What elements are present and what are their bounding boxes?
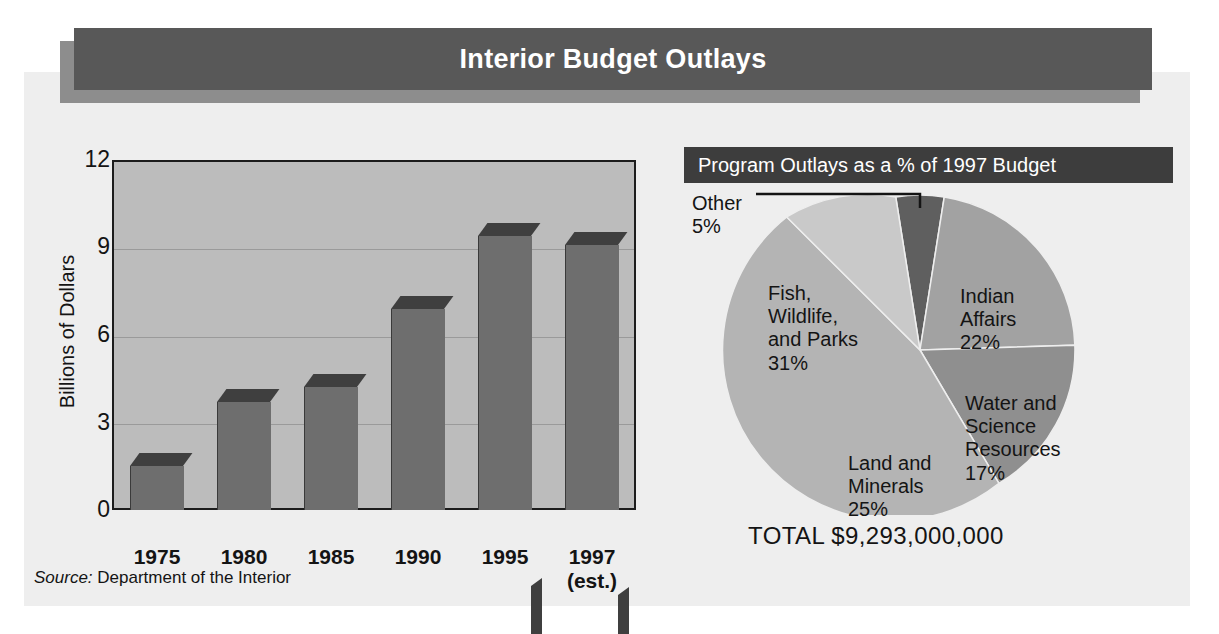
y-tick-0: 0 xyxy=(68,498,110,521)
pie-label-indian-affairs: Indian Affairs 22% xyxy=(960,285,1016,355)
x-tick-sublabel: (est.) xyxy=(542,569,642,593)
x-tick-1975: 1975 xyxy=(107,545,207,569)
y-tick-12: 12 xyxy=(68,148,110,171)
pie-label-other-pct: 5% xyxy=(692,215,742,238)
y-tick-3: 3 xyxy=(68,411,110,434)
bar-top-face xyxy=(217,389,279,402)
x-tick-label: 1980 xyxy=(194,545,294,569)
bar-top-face xyxy=(304,374,366,387)
x-tick-1985: 1985 xyxy=(281,545,381,569)
bar-front-face xyxy=(304,387,358,510)
x-tick-label: 1990 xyxy=(368,545,468,569)
pie-label-line: Wildlife, xyxy=(768,305,858,328)
bar-front-face xyxy=(130,466,184,510)
pie-header-bar: Program Outlays as a % of 1997 Budget xyxy=(684,147,1173,183)
x-tick-label: 1997 xyxy=(542,545,642,569)
pie-label-water-science: Water and Science Resources 17% xyxy=(965,392,1061,485)
bar-front-face xyxy=(217,402,271,510)
bar-top-face xyxy=(391,296,453,309)
pie-label-line: and Parks xyxy=(768,328,858,351)
bar-top-face xyxy=(130,453,192,466)
bar-top-face xyxy=(565,232,627,245)
source-prefix: Source: xyxy=(34,568,93,587)
pie-label-fish-wildlife-parks: Fish, Wildlife, and Parks 31% xyxy=(768,282,858,375)
pie-label-line: Indian xyxy=(960,285,1016,308)
bar-front-face xyxy=(478,236,532,510)
figure-root: Interior Budget Outlays Billions of Doll… xyxy=(0,0,1219,634)
pie-label-line: Minerals xyxy=(848,475,931,498)
y-axis-ticks: 12 9 6 3 0 xyxy=(64,130,110,530)
pie-label-pct: 17% xyxy=(965,462,1061,485)
pie-label-pct: 22% xyxy=(960,331,1016,354)
pie-label-pct: 25% xyxy=(848,498,931,521)
x-tick-1997: 1997 (est.) xyxy=(542,545,642,592)
source-note: Source: Department of the Interior xyxy=(34,568,291,588)
bar-front-face xyxy=(565,245,619,510)
pie-chart: Program Outlays as a % of 1997 Budget Ot… xyxy=(660,130,1200,600)
pie-label-line: Water and xyxy=(965,392,1061,415)
bar-chart: Billions of Dollars 12 9 6 3 0 xyxy=(24,130,664,610)
x-tick-1980: 1980 xyxy=(194,545,294,569)
pie-label-line: Fish, xyxy=(768,282,858,305)
page-title: Interior Budget Outlays xyxy=(460,46,767,73)
bar-series xyxy=(112,160,636,540)
pie-label-other: Other 5% xyxy=(692,192,742,238)
pie-label-land-minerals: Land and Minerals 25% xyxy=(848,452,931,522)
bar-top-face xyxy=(478,223,540,236)
x-tick-label: 1975 xyxy=(107,545,207,569)
y-tick-9: 9 xyxy=(68,235,110,258)
pie-label-line: Science xyxy=(965,415,1061,438)
x-tick-1995: 1995 xyxy=(455,545,555,569)
source-text: Department of the Interior xyxy=(93,568,291,587)
pie-label-other-name: Other xyxy=(692,192,742,215)
x-tick-label: 1985 xyxy=(281,545,381,569)
bar-front-face xyxy=(391,309,445,510)
pie-label-line: Resources xyxy=(965,438,1061,461)
x-tick-label: 1995 xyxy=(455,545,555,569)
pie-label-line: Land and xyxy=(848,452,931,475)
pie-header-label: Program Outlays as a % of 1997 Budget xyxy=(684,155,1056,175)
pie-label-pct: 31% xyxy=(768,352,858,375)
y-tick-6: 6 xyxy=(68,323,110,346)
pie-label-line: Affairs xyxy=(960,308,1016,331)
title-banner: Interior Budget Outlays xyxy=(74,28,1152,90)
x-tick-1990: 1990 xyxy=(368,545,468,569)
pie-total-label: TOTAL $9,293,000,000 xyxy=(748,522,1004,550)
